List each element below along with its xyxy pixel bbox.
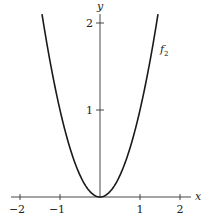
x-tick-label: 2 (177, 203, 184, 216)
y-axis-label: y (96, 0, 104, 13)
f2-label: f2 (159, 43, 169, 58)
y-tick-label: 2 (86, 17, 93, 30)
x-tick-label: −2 (9, 203, 25, 216)
labels: −2−11212xyf2 (9, 0, 202, 216)
axes (11, 14, 191, 197)
x-tick-label: −1 (49, 203, 65, 216)
x-axis-label: x (195, 190, 202, 203)
y-tick-label: 1 (86, 104, 93, 117)
x-tick-label: 1 (137, 203, 144, 216)
parabola-chart: −2−11212xyf2 (0, 0, 206, 218)
